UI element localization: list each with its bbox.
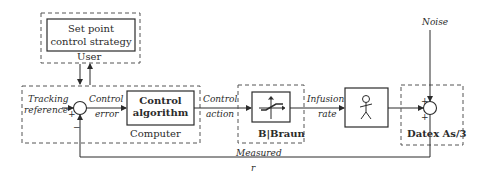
noise-sum-plus-left: + xyxy=(421,113,429,122)
measured-r-label: r xyxy=(251,164,255,173)
control-algorithm-label-line1: Control xyxy=(127,96,194,106)
sum-minus-sign: − xyxy=(73,123,81,132)
pump-container-label: B|Braun xyxy=(258,129,305,139)
control-action-label-line1: Control xyxy=(203,95,237,104)
control-error-label-line2: error xyxy=(95,110,119,119)
tracking-reference-label-line1: Tracking xyxy=(28,95,69,104)
control-algorithm-label-line2: algorithm xyxy=(127,108,194,118)
infusion-rate-label-line2: rate xyxy=(318,110,337,119)
measured-label: Measured xyxy=(236,149,282,158)
tracking-reference-label-line2: reference xyxy=(24,106,68,115)
monitor-container-label: Datex As/3 xyxy=(407,129,467,139)
control-action-label-line2: action xyxy=(206,110,234,119)
noise-sum-plus-top: + xyxy=(421,97,429,106)
control-error-label-line1: Control xyxy=(89,95,123,104)
sum-plus-sign: + xyxy=(68,110,76,119)
noise-label: Noise xyxy=(422,18,448,27)
set-point-label-line1: Set point xyxy=(47,24,135,34)
user-container-label: User xyxy=(77,52,101,62)
computer-container-label: Computer xyxy=(130,129,181,139)
infusion-rate-label-line1: Infusion xyxy=(307,95,344,104)
set-point-label-line2: control strategy xyxy=(47,37,135,47)
